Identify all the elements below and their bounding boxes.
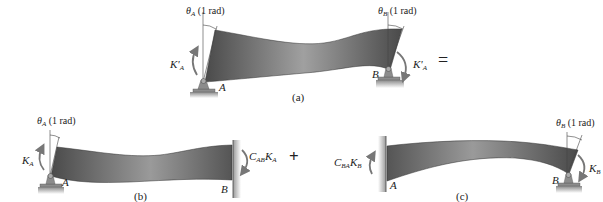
theta-b-label: θB (1 rad) — [378, 5, 417, 18]
equals-operator: = — [438, 50, 448, 70]
support-label-b-left: A — [61, 176, 69, 188]
caption-c: (c) — [456, 190, 469, 202]
theta-b-label-c: θB (1 rad) — [556, 117, 595, 130]
fixed-wall-b — [233, 140, 241, 198]
moment-label-b-right: CABKA — [249, 150, 277, 164]
panel-a: θA (1 rad) θB (1 rad) A B K'A K'A (a) = — [169, 5, 448, 104]
fixed-wall-c — [378, 136, 386, 192]
theta-arc-b — [50, 135, 60, 138]
moment-arrow-c-left — [370, 155, 373, 174]
moment-arrow-b-right — [242, 150, 247, 172]
support-label-c-left: A — [389, 179, 397, 191]
pin-support-a-right — [376, 67, 404, 89]
panel-b: θA (1 rad) A B KA CABKA (b) + — [21, 115, 299, 202]
moment-arrow-b-left — [39, 148, 44, 170]
caption-b: (b) — [134, 190, 147, 202]
support-label-b-right: B — [221, 183, 228, 195]
moment-arrow-a-left — [193, 50, 197, 75]
support-label-c-right: B — [552, 174, 559, 186]
moment-arrow-a-right — [397, 52, 406, 78]
theta-a-label-b: θA (1 rad) — [37, 115, 76, 128]
theta-arc-c — [567, 136, 582, 140]
panel-c: A θB (1 rad) B CBAKB KB (c) — [334, 117, 601, 202]
moment-label-a-left: K'A — [169, 58, 185, 72]
theta-a-label: θA (1 rad) — [186, 5, 225, 18]
moment-label-a-right: K'A — [412, 58, 428, 72]
moment-label-b-left: KA — [21, 154, 34, 168]
stiffness-factor-diagram: θA (1 rad) θB (1 rad) A B K'A K'A (a) = — [0, 0, 603, 202]
moment-label-c-right: KB — [588, 162, 601, 176]
theta-arc-b-right — [388, 25, 403, 29]
support-label-a-left: A — [218, 81, 226, 93]
moment-label-c-left: CBAKB — [334, 156, 362, 170]
moment-arrow-c-right — [578, 155, 584, 178]
support-label-a-right: B — [372, 68, 379, 80]
plus-operator: + — [289, 147, 299, 166]
pin-support-c — [556, 173, 582, 194]
theta-arc-a-left — [203, 25, 216, 29]
beam-c — [387, 141, 578, 181]
beam-b — [51, 145, 232, 182]
caption-a: (a) — [292, 91, 305, 104]
